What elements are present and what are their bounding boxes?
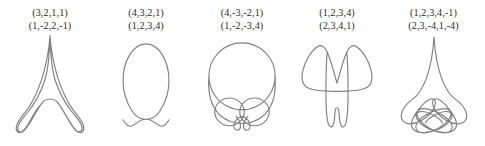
figure-label-3-top: (4,-3,-2,1): [221, 6, 264, 19]
curve-butterfly-two-wings-two-legs: [292, 34, 382, 134]
curve-spire-with-two-base-loops: [2, 34, 98, 138]
figure-curve-holder-4: [288, 34, 386, 134]
figure-label-4: (1,2,3,4) (2,3,4,1): [319, 0, 355, 33]
figure-label-3: (4,-3,-2,1) (1,-2,-3,4): [221, 0, 264, 33]
curve-path-3: [209, 43, 276, 130]
figure-label-2-bottom: (1,2,3,4): [128, 19, 164, 32]
curve-path-4: [302, 46, 372, 127]
curve-round-scalloped-bottom: [100, 34, 192, 134]
figure-label-1-bottom: (1,-2,2,-1): [29, 19, 72, 32]
curve-spire-with-three-petal-loops: [386, 34, 482, 138]
figure-cell-3: (4,-3,-2,1) (1,-2,-3,4): [192, 0, 292, 146]
figure-panel: (3,2,1,1) (1,-2,2,-1) (4,3,2,1) (1,2,3,4…: [0, 0, 485, 146]
figure-label-4-top: (1,2,3,4): [319, 6, 355, 19]
figure-cell-5: (1,2,3,4,-1) (2,3,-4,1,-4): [384, 0, 483, 146]
figure-cell-2: (4,3,2,1) (1,2,3,4): [98, 0, 194, 146]
figure-label-1-top: (3,2,1,1): [29, 6, 72, 19]
figure-label-5-top: (1,2,3,4,-1): [408, 6, 459, 19]
figure-label-5: (1,2,3,4,-1) (2,3,-4,1,-4): [408, 0, 459, 33]
figure-curve-holder-2: [98, 34, 194, 134]
figure-label-4-bottom: (2,3,4,1): [319, 19, 355, 32]
curve-path-5: [401, 37, 466, 133]
curve-path-1: [16, 35, 84, 132]
curve-path-2: [123, 44, 169, 126]
figure-curve-holder-5: [384, 34, 483, 138]
figure-label-5-bottom: (2,3,-4,1,-4): [408, 19, 459, 32]
figure-label-1: (3,2,1,1) (1,-2,2,-1): [29, 0, 72, 33]
curve-skull-two-eyes-nose-loop: [195, 34, 289, 136]
figure-label-3-bottom: (1,-2,-3,4): [221, 19, 264, 32]
figure-curve-holder-1: [2, 34, 98, 138]
figure-cell-1: (3,2,1,1) (1,-2,2,-1): [2, 0, 98, 146]
figure-cell-4: (1,2,3,4) (2,3,4,1): [288, 0, 386, 146]
figure-curve-holder-3: [192, 34, 292, 136]
figure-label-2-top: (4,3,2,1): [128, 6, 164, 19]
figure-label-2: (4,3,2,1) (1,2,3,4): [128, 0, 164, 33]
